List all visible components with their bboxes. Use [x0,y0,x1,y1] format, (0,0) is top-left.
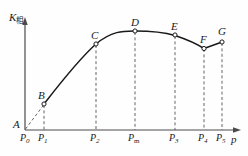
marker-d [133,29,137,33]
tick-label-p3: P3 [169,133,179,143]
tick-label-p2-sub: 2 [96,137,100,145]
tick-label-p1-sub: 1 [44,137,48,145]
x-axis-arrow [233,127,241,133]
segment-a-b-dashed [26,105,45,130]
marker-g [220,40,224,44]
drop-lines [44,32,222,130]
tick-label-p4: P4 [198,133,208,143]
point-label-a: A [13,119,20,130]
point-markers [42,29,224,106]
point-label-f: F [200,34,207,45]
point-label-e: E [171,21,178,32]
y-axis-label-sub: 相 [16,16,23,25]
tick-label-pm-sub: m [134,137,139,145]
tick-label-p0-sub: 0 [26,137,30,145]
marker-c [94,42,98,46]
marker-b [42,102,46,106]
tick-label-p5-sub: 5 [222,137,226,145]
marker-e [173,33,177,37]
point-label-b: B [38,90,45,101]
point-label-d: D [131,17,139,28]
x-axis-label: p [231,134,237,145]
tick-label-p0: P0 [20,133,30,143]
point-label-c: C [91,30,98,41]
tick-label-pm: Pm [128,133,140,143]
tick-label-p2: P2 [90,133,100,143]
figure-canvas: K相 p A B C D E F G P0 P1 P2 Pm P3 P4 P5 [0,0,248,156]
tick-label-p3-sub: 3 [175,137,179,145]
tick-label-p5: P5 [216,133,226,143]
curve-path [44,31,222,104]
tick-label-p4-sub: 4 [204,137,208,145]
y-axis [22,17,27,130]
marker-f [202,46,206,50]
tick-label-p1: P1 [38,133,48,143]
y-axis-label: K相 [9,12,23,23]
point-label-g: G [218,26,226,37]
